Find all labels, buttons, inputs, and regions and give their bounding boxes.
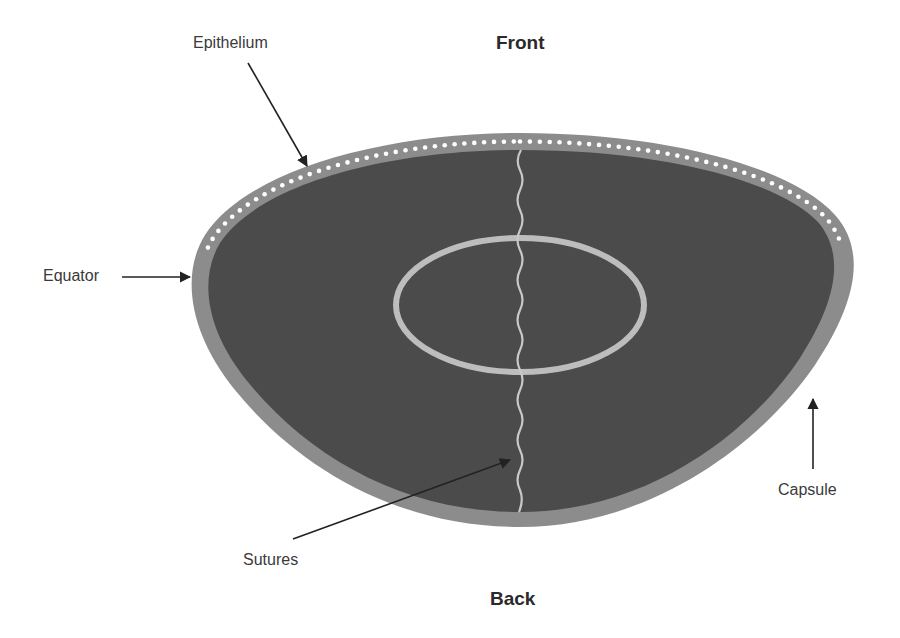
epithelium-dot xyxy=(827,219,832,224)
epithelium-dot xyxy=(206,245,211,250)
epithelium-dot xyxy=(230,214,235,219)
epithelium-dot xyxy=(538,139,543,144)
epithelium-arrow xyxy=(248,63,307,166)
epithelium-dot xyxy=(820,212,825,217)
epithelium-dot xyxy=(254,197,259,202)
epithelium-dot xyxy=(779,185,784,190)
epithelium-dot xyxy=(384,151,389,156)
epithelium-dot xyxy=(512,139,517,144)
epithelium-dot xyxy=(567,141,572,146)
epithelium-dot xyxy=(636,147,641,152)
epithelium-dot xyxy=(262,192,267,197)
epithelium-dot xyxy=(626,146,631,151)
epithelium-dot xyxy=(289,179,294,184)
epithelium-dot xyxy=(238,208,243,213)
sutures-label: Sutures xyxy=(243,551,298,569)
epithelium-dot xyxy=(813,206,818,211)
epithelium-dot xyxy=(770,181,775,186)
epithelium-dot xyxy=(216,229,221,234)
epithelium-dot xyxy=(355,158,360,163)
capsule-label: Capsule xyxy=(778,481,837,499)
epithelium-dot xyxy=(210,237,215,242)
epithelium-dot xyxy=(307,172,312,177)
epithelium-dot xyxy=(723,165,728,170)
epithelium-dot xyxy=(646,148,651,153)
epithelium-dot xyxy=(704,160,709,165)
epithelium-dot xyxy=(714,162,719,167)
epithelium-dot xyxy=(685,155,690,160)
epithelium-dot xyxy=(452,142,457,147)
epithelium-dot xyxy=(761,177,766,182)
epithelium-dot xyxy=(518,139,523,144)
epithelium-dot xyxy=(374,153,379,158)
epithelium-dot xyxy=(665,152,670,157)
epithelium-dot xyxy=(577,141,582,146)
epithelium-dot xyxy=(492,140,497,145)
epithelium-dot xyxy=(442,143,447,148)
epithelium-dot xyxy=(364,155,369,160)
epithelium-dot xyxy=(547,140,552,145)
epithelium-dot xyxy=(733,167,738,172)
epithelium-dot xyxy=(223,221,228,226)
epithelium-dot xyxy=(616,145,621,150)
epithelium-dot xyxy=(528,139,533,144)
epithelium-dot xyxy=(597,143,602,148)
epithelium-dot xyxy=(271,187,276,192)
epithelium-dot xyxy=(788,190,793,195)
epithelium-dot xyxy=(298,175,303,180)
epithelium-dot xyxy=(433,144,438,149)
epithelium-dot xyxy=(796,194,801,199)
epithelium-dot xyxy=(246,202,251,207)
lens-diagram xyxy=(0,0,900,638)
epithelium-dot xyxy=(413,147,418,152)
epithelium-dot xyxy=(656,150,661,155)
epithelium-dot xyxy=(462,141,467,146)
epithelium-dot xyxy=(482,140,487,145)
epithelium-dot xyxy=(742,171,747,176)
epithelium-dot xyxy=(694,157,699,162)
epithelium-dot xyxy=(557,140,562,145)
epithelium-dot xyxy=(805,200,810,205)
epithelium-dot xyxy=(751,174,756,179)
epithelium-dot xyxy=(326,166,331,171)
epithelium-dot xyxy=(472,141,477,146)
epithelium-dot xyxy=(280,183,285,188)
epithelium-dot xyxy=(502,139,507,144)
epithelium-dot xyxy=(403,148,408,153)
epithelium-dot xyxy=(345,160,350,165)
back-label: Back xyxy=(490,588,535,610)
epithelium-label: Epithelium xyxy=(193,34,268,52)
epithelium-dot xyxy=(607,144,612,149)
front-label: Front xyxy=(496,32,545,54)
epithelium-dot xyxy=(832,227,837,232)
epithelium-dot xyxy=(837,236,842,241)
epithelium-dot xyxy=(317,169,322,174)
epithelium-dot xyxy=(675,153,680,158)
epithelium-dot xyxy=(336,163,341,168)
epithelium-dot xyxy=(587,142,592,147)
equator-label: Equator xyxy=(43,267,99,285)
epithelium-dot xyxy=(423,145,428,150)
epithelium-dot xyxy=(393,150,398,155)
